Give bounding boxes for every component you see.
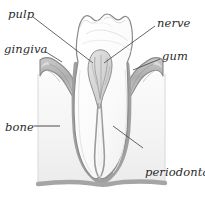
label-nerve: nerve xyxy=(157,17,191,30)
label-pulp: pulp xyxy=(8,8,34,21)
label-periodontal-membrane-line1: periodontal xyxy=(145,166,205,179)
label-periodontal-membrane: periodontal membrane xyxy=(145,141,205,198)
label-gum: gum xyxy=(162,50,188,63)
label-gingiva: gingiva xyxy=(4,43,48,56)
label-bone: bone xyxy=(5,121,34,134)
tooth-anatomy-figure: pulp nerve gingiva gum bone periodontal … xyxy=(0,0,205,198)
